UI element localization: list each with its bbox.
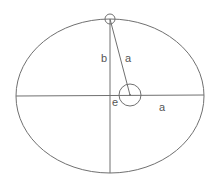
label-a-major: a — [159, 101, 166, 113]
focus-point — [129, 94, 131, 96]
label-b: b — [101, 52, 107, 64]
label-a-focal: a — [125, 52, 132, 64]
ellipse-diagram: b a e a — [0, 0, 216, 181]
label-e: e — [112, 96, 118, 108]
